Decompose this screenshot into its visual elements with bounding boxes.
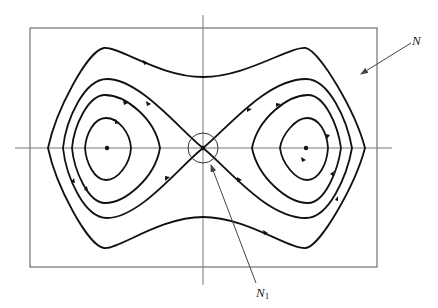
innermost-periodic-orbit-right (280, 118, 328, 180)
left-center-point (105, 146, 109, 150)
flow-arrow-icon (301, 157, 306, 162)
phase-portrait-diagram (0, 0, 438, 308)
flow-arrow-icon (247, 108, 252, 112)
pointer-arrow-n (361, 43, 411, 74)
label-n1-base: N (256, 285, 265, 300)
label-n: N (412, 34, 421, 47)
pointer-arrow-n1 (211, 165, 256, 283)
label-n1-subscript: 1 (265, 291, 270, 301)
saddle-point (201, 146, 205, 150)
flow-arrow-icon (335, 196, 338, 201)
flow-arrow-icon (146, 101, 151, 106)
right-center-point (304, 146, 308, 150)
label-n1: N1 (256, 286, 269, 301)
